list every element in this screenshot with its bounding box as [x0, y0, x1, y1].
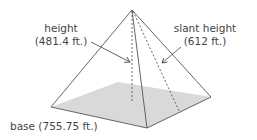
slant-height-label-name: slant height — [165, 22, 245, 35]
height-label-name: height — [26, 22, 96, 35]
height-label: height (481.4 ft.) — [26, 22, 96, 48]
slant-height-label: slant height (612 ft.) — [165, 22, 245, 48]
height-label-value: (481.4 ft.) — [26, 35, 96, 48]
base-label: base (755.75 ft.) — [10, 120, 98, 133]
slant-height-label-value: (612 ft.) — [165, 35, 245, 48]
pyramid-diagram — [0, 0, 257, 140]
